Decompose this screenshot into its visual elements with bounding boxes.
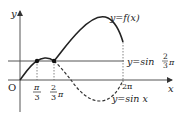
tick-pi-3-denominator: 3 [35, 93, 40, 102]
tick-2pi-3-suffix: π [57, 90, 64, 99]
curve-f-label: y=f(x) [109, 12, 140, 23]
line-label-prefix: y=sin [126, 56, 154, 67]
tick-2pi-label: 2π [122, 82, 132, 91]
intersection-point-2pi-3 [52, 59, 56, 63]
intersection-point-pi-3 [35, 59, 39, 63]
line-label-numerator: 2 [163, 52, 168, 61]
tick-pi-3-numerator: π [33, 83, 40, 92]
y-axis-label: y [10, 8, 17, 19]
x-axis-label: x [168, 83, 174, 94]
tick-2pi-3-denominator: 3 [51, 93, 56, 102]
curve-sin-label: y=sin x [111, 93, 148, 104]
function-graph: y x O π 3 2 3 π 2π y=f(x) y=sin 2 3 π y=… [0, 0, 181, 116]
tick-2pi-3-numerator: 2 [51, 83, 56, 92]
line-label-denominator: 3 [163, 61, 168, 70]
curve-f [20, 17, 123, 80]
line-label-suffix: π [168, 58, 175, 67]
origin-label: O [8, 82, 16, 93]
